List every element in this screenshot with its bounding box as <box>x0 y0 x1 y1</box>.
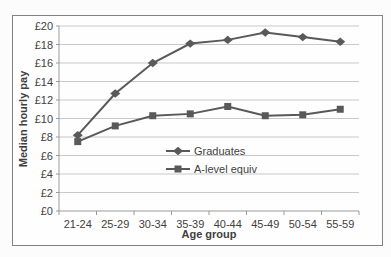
y-tick-label: £4 <box>41 168 53 180</box>
y-tick-label: £12 <box>35 94 53 106</box>
data-point <box>224 103 231 110</box>
data-point <box>185 39 195 47</box>
y-tick-label: £6 <box>41 150 53 162</box>
data-point <box>187 110 194 117</box>
x-tick-label: 50-54 <box>289 218 317 230</box>
x-tick-label: 21-24 <box>64 218 92 230</box>
y-tick-label: £8 <box>41 131 53 143</box>
data-point <box>337 106 344 113</box>
legend-label: Graduates <box>194 145 246 157</box>
data-point <box>262 112 269 119</box>
data-point <box>260 28 270 36</box>
line-chart: Median hourly pay Age group £0£2£4£6£8£1… <box>13 16 382 245</box>
data-point <box>149 112 156 119</box>
y-tick-label: £10 <box>35 113 53 125</box>
x-tick-label: 30-34 <box>139 218 167 230</box>
x-tick-label: 40-44 <box>214 218 242 230</box>
chart-canvas: Median hourly pay Age group £0£2£4£6£8£1… <box>0 0 391 257</box>
x-tick-label: 55-59 <box>326 218 354 230</box>
series-line-graduates <box>78 32 341 135</box>
y-tick-label: £18 <box>35 39 53 51</box>
y-tick-label: £0 <box>41 205 53 217</box>
x-tick-label: 35-39 <box>176 218 204 230</box>
y-tick-label: £16 <box>35 57 53 69</box>
data-point <box>74 138 81 145</box>
x-tick-label: 45-49 <box>251 218 279 230</box>
y-tick-label: £2 <box>41 187 53 199</box>
x-tick-label: 25-29 <box>101 218 129 230</box>
y-axis-title: Median hourly pay <box>17 70 29 167</box>
y-tick-label: £20 <box>35 20 53 32</box>
chart-figure: Median hourly pay Age group £0£2£4£6£8£1… <box>12 15 383 246</box>
data-point <box>298 33 308 41</box>
data-point <box>112 122 119 129</box>
data-point <box>299 111 306 118</box>
data-point <box>223 36 233 44</box>
legend-label: A-level equiv <box>194 163 257 175</box>
y-tick-label: £14 <box>35 76 53 88</box>
legend-key-marker <box>175 166 182 173</box>
plot-area: £0£2£4£6£8£10£12£14£16£18£2021-2425-2930… <box>35 20 359 230</box>
legend-key-marker <box>173 147 183 155</box>
